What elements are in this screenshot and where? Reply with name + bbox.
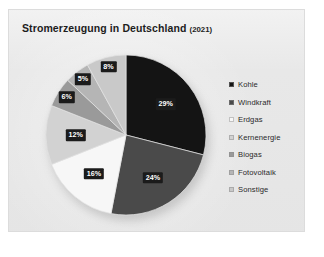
legend-swatch-icon-kernenergie <box>229 135 234 140</box>
legend-item-sonstige[interactable]: Sonstige <box>229 181 305 199</box>
legend-item-kohle[interactable]: Kohle <box>229 76 305 94</box>
pie-slice-label: 6% <box>58 92 74 104</box>
legend-item-windkraft[interactable]: Windkraft <box>229 94 305 112</box>
legend-label-sonstige: Sonstige <box>238 185 268 194</box>
legend-swatch-icon-windkraft <box>229 100 234 105</box>
chart-card: Stromerzeugung in Deutschland (2021) 29%… <box>8 9 305 232</box>
legend-label-kohle: Kohle <box>238 80 258 89</box>
legend-label-kernenergie: Kernenergie <box>238 133 280 142</box>
page-title: Stromerzeugung in Deutschland (2021) <box>22 22 212 34</box>
legend-label-erdgas: Erdgas <box>238 115 263 124</box>
pie-slice-label: 24% <box>143 172 163 184</box>
chart-title-year: (2021) <box>190 25 213 34</box>
pie-chart: 29%24%16%12%6%5%8% <box>45 54 207 216</box>
pie-slice-label: 16% <box>84 168 104 180</box>
legend-swatch-icon-erdgas <box>229 117 234 122</box>
pie-slice-label: 29% <box>156 98 176 110</box>
legend-label-fotovoltaik: Fotovoltaik <box>238 168 276 177</box>
legend-label-biogas: Biogas <box>238 150 262 159</box>
legend-swatch-icon-sonstige <box>229 187 234 192</box>
legend: Kohle Windkraft Erdgas Kernenergie Bioga… <box>229 76 305 199</box>
legend-item-kernenergie[interactable]: Kernenergie <box>229 129 305 147</box>
legend-item-biogas[interactable]: Biogas <box>229 146 305 164</box>
legend-label-windkraft: Windkraft <box>238 98 271 107</box>
pie-slice-label: 5% <box>75 74 91 86</box>
legend-item-erdgas[interactable]: Erdgas <box>229 111 305 129</box>
legend-swatch-icon-fotovoltaik <box>229 170 234 175</box>
legend-item-fotovoltaik[interactable]: Fotovoltaik <box>229 164 305 182</box>
pie-slice-label: 8% <box>100 61 116 73</box>
legend-swatch-icon-biogas <box>229 152 234 157</box>
pie-slice-label: 12% <box>65 129 85 141</box>
chart-title-main: Stromerzeugung in Deutschland <box>22 22 187 34</box>
legend-swatch-icon-kohle <box>229 82 234 87</box>
